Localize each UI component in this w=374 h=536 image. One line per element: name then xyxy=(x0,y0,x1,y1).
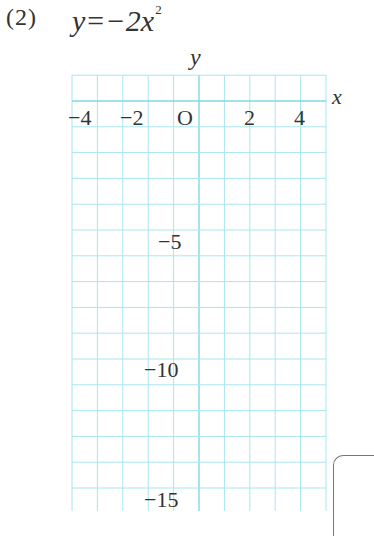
y-tick-neg5: −5 xyxy=(158,229,181,255)
x-tick-neg4: −4 xyxy=(68,105,91,131)
y-tick-neg15: −15 xyxy=(144,487,178,513)
x-tick-2: 2 xyxy=(244,105,255,131)
y-tick-neg10: −10 xyxy=(144,357,178,383)
x-tick-4: 4 xyxy=(294,105,305,131)
x-tick-neg2: −2 xyxy=(120,105,143,131)
x-axis-label: x xyxy=(332,84,342,110)
answer-box-corner xyxy=(333,455,374,536)
origin-label: O xyxy=(177,105,193,131)
y-axis-label: y xyxy=(190,44,201,71)
